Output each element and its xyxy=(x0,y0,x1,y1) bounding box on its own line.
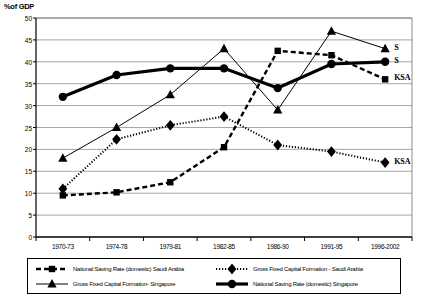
data-point-gfcf_sg xyxy=(58,153,67,162)
data-point-nsr_sg xyxy=(327,60,335,68)
y-tick-label: 10 xyxy=(14,190,32,197)
y-tick-label: 50 xyxy=(14,15,32,22)
data-point-nsr_sg xyxy=(220,64,228,72)
legend-marker-gfcf_ksa xyxy=(228,264,237,275)
data-point-gfcf_ksa xyxy=(273,140,282,151)
legend-item-gfcf_ksa: Gross Fixed Capital Formation - Saudi Ar… xyxy=(214,262,363,276)
data-point-gfcf_sg xyxy=(219,44,228,53)
legend-swatch-gfcf_ksa xyxy=(214,263,250,275)
y-tick-label: 20 xyxy=(14,146,32,153)
data-point-gfcf_sg xyxy=(112,123,121,132)
end-label-gfcf_sg: S xyxy=(394,43,398,52)
legend-item-nsr_ksa: National Saving Rate (domestic) Saudi Ar… xyxy=(34,262,184,276)
data-point-gfcf_ksa xyxy=(166,120,175,131)
x-tick-label: 1986-90 xyxy=(267,243,289,250)
legend-marker-nsr_ksa xyxy=(49,266,55,272)
y-tick-label: 30 xyxy=(14,102,32,109)
data-point-nsr_ksa xyxy=(167,179,173,185)
data-point-gfcf_sg xyxy=(166,90,175,99)
data-point-nsr_sg xyxy=(381,58,389,66)
data-point-nsr_ksa xyxy=(382,76,388,82)
data-point-nsr_sg xyxy=(59,93,67,101)
y-tick-label: 40 xyxy=(14,58,32,65)
data-point-nsr_ksa xyxy=(113,189,119,195)
legend-marker-nsr_sg xyxy=(228,280,236,288)
end-label-gfcf_ksa: KSA xyxy=(394,157,410,166)
y-tick-label: 0 xyxy=(14,234,32,241)
data-point-gfcf_ksa xyxy=(112,134,121,145)
data-point-nsr_ksa xyxy=(221,144,227,150)
end-label-nsr_sg: S xyxy=(394,56,398,65)
legend-swatch-nsr_ksa xyxy=(34,263,70,275)
plot-area xyxy=(0,0,423,300)
series-markers xyxy=(58,26,389,198)
y-tick-label: 25 xyxy=(14,124,32,131)
end-label-nsr_ksa: KSA xyxy=(394,73,410,82)
legend-item-nsr_sg: National Saving Rate (domestic) Singapor… xyxy=(214,277,358,291)
chart-container: %of GDP 1970-731974-781979-811982-851986… xyxy=(0,0,423,300)
data-point-gfcf_ksa xyxy=(381,157,390,168)
data-point-nsr_sg xyxy=(274,84,282,92)
data-point-nsr_ksa xyxy=(275,48,281,54)
legend-label-gfcf_ksa: Gross Fixed Capital Formation - Saudi Ar… xyxy=(253,266,363,272)
legend-label-gfcf_sg: Gross Fixed Capital Formation- Singapore xyxy=(73,281,175,287)
x-tick-label: 1982-85 xyxy=(213,243,235,250)
data-point-nsr_ksa xyxy=(328,52,334,58)
data-point-gfcf_sg xyxy=(327,26,336,35)
legend-swatch-nsr_sg xyxy=(214,278,250,290)
y-tick-label: 45 xyxy=(14,36,32,43)
chart-legend: National Saving Rate (domestic) Saudi Ar… xyxy=(27,258,401,294)
legend-swatch-gfcf_sg xyxy=(34,278,70,290)
data-point-gfcf_ksa xyxy=(220,111,229,122)
data-point-nsr_sg xyxy=(112,71,120,79)
data-point-gfcf_ksa xyxy=(327,146,336,157)
legend-marker-gfcf_sg xyxy=(47,279,56,288)
y-tick-label: 5 xyxy=(14,212,32,219)
x-tick-label: 1991-95 xyxy=(321,243,343,250)
x-tick-label: 1974-78 xyxy=(106,243,128,250)
data-point-nsr_sg xyxy=(166,64,174,72)
legend-item-gfcf_sg: Gross Fixed Capital Formation- Singapore xyxy=(34,277,175,291)
y-tick-label: 15 xyxy=(14,168,32,175)
x-tick-label: 1970-73 xyxy=(52,243,74,250)
y-tick-label: 35 xyxy=(14,80,32,87)
legend-label-nsr_ksa: National Saving Rate (domestic) Saudi Ar… xyxy=(73,266,184,272)
x-tick-label: 1996-2002 xyxy=(371,243,399,250)
legend-label-nsr_sg: National Saving Rate (domestic) Singapor… xyxy=(253,281,358,287)
x-tick-marks xyxy=(36,237,412,241)
x-tick-label: 1979-81 xyxy=(159,243,181,250)
